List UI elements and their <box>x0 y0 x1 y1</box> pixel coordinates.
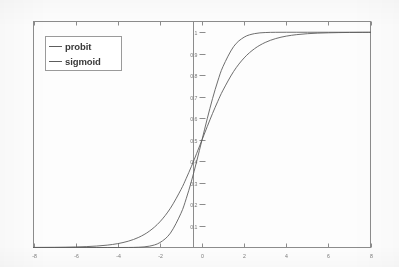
y-tick-label: 0.9 <box>190 52 197 58</box>
legend-label-probit: probit <box>65 41 91 52</box>
x-axis-tick-labels: -8-6-4-202468 <box>32 253 373 259</box>
y-tick-label: 1 <box>195 30 198 36</box>
figure-canvas: -8-6-4-202468 0.10.20.30.40.50.60.70.80.… <box>0 0 399 267</box>
x-axis-ticks-top <box>35 22 372 26</box>
legend-label-sigmoid: sigmoid <box>65 56 101 67</box>
y-tick-label: 0.7 <box>190 95 197 101</box>
legend-swatch-probit <box>49 46 62 47</box>
x-tick-label: 4 <box>285 253 288 259</box>
y-tick-label: 0.8 <box>190 73 197 79</box>
x-tick-label: 8 <box>370 253 373 259</box>
legend-swatch-sigmoid <box>49 61 62 62</box>
y-tick-label: 0.6 <box>190 116 197 122</box>
x-tick-label: 2 <box>243 253 246 259</box>
x-tick-label: -6 <box>74 253 79 259</box>
x-tick-label: -8 <box>32 253 37 259</box>
y-tick-label: 0.1 <box>190 224 197 230</box>
x-tick-label: -4 <box>116 253 121 259</box>
x-tick-label: 0 <box>201 253 204 259</box>
y-tick-label: 0.2 <box>190 202 197 208</box>
legend-item-sigmoid: sigmoid <box>49 54 118 69</box>
y-tick-label: 0.5 <box>190 138 197 144</box>
chart-legend: probit sigmoid <box>45 36 122 71</box>
x-tick-label: -2 <box>158 253 163 259</box>
legend-item-probit: probit <box>49 39 118 54</box>
x-tick-label: 6 <box>327 253 330 259</box>
